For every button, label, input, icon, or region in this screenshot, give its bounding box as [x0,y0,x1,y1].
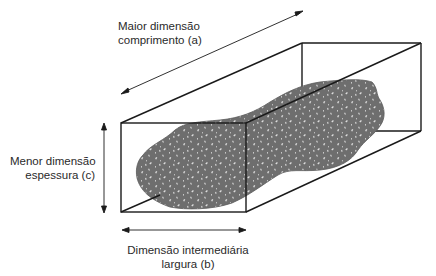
particle-dimensions-diagram [0,0,436,276]
width-label-line1: Dimensão intermediária [126,243,250,257]
thickness-label-line2: espessura (c) [10,168,95,182]
width-label: Dimensão intermediária largura (b) [126,243,250,271]
length-label-line1: Maior dimensão [118,19,202,33]
length-label-line2: comprimento (a) [118,33,202,47]
length-label: Maior dimensão comprimento (a) [118,19,202,47]
thickness-label-line1: Menor dimensão [10,154,95,168]
width-arrow [122,228,246,233]
thickness-arrow [102,123,107,213]
thickness-label: Menor dimensão espessura (c) [10,154,95,182]
width-label-line2: largura (b) [126,257,250,271]
